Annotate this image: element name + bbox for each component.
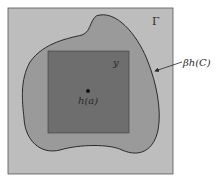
inner-square-label: y xyxy=(112,57,119,68)
outer-region-label: Γ xyxy=(152,15,160,28)
point-dot xyxy=(86,89,90,93)
point-label: h(a) xyxy=(78,95,98,106)
diagram-canvas: Γ y h(a) βh(C) xyxy=(0,0,220,180)
boundary-label: βh(C) xyxy=(182,57,211,68)
